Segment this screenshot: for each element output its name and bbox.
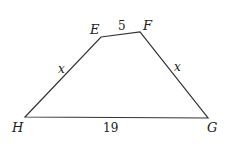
vertex-label-g: G [207,120,217,135]
side-label-fg: x [174,60,181,74]
side-label-he: x [58,62,65,76]
vertex-label-h: H [11,120,24,135]
side-label-gh: 19 [103,121,118,135]
side-label-ef: 5 [118,19,126,33]
vertex-label-f: F [142,18,153,33]
vertex-label-e: E [89,22,100,37]
trapezoid-diagram: E F G H 5 x 19 x [0,0,228,146]
quadrilateral-efgh [25,32,208,118]
